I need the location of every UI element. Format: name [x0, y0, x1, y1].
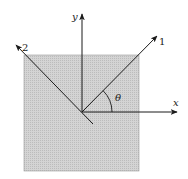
y-axis-label: y — [71, 11, 78, 22]
rotated-axes-diagram: y x 1 2 θ — [0, 0, 188, 179]
axis-1-label: 1 — [159, 36, 165, 47]
x-axis-label: x — [173, 97, 179, 108]
axis-2-label: 2 — [22, 42, 28, 53]
angle-label: θ — [115, 92, 121, 103]
